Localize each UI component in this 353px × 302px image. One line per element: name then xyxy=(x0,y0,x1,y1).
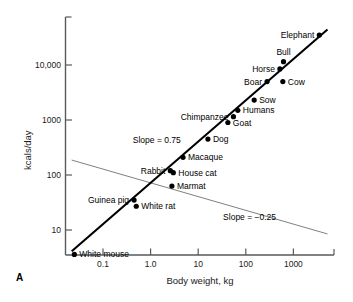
y-axis-title: kcals/day xyxy=(22,130,33,170)
data-point xyxy=(252,98,257,103)
x-tick-label: 100 xyxy=(239,259,253,269)
data-point-label: Rabbit xyxy=(141,166,166,176)
x-tick-marks xyxy=(103,249,293,256)
data-point xyxy=(264,79,269,84)
x-tick-label: 0.1 xyxy=(97,259,109,269)
y-tick-label: 10,000 xyxy=(0,60,61,70)
data-point xyxy=(171,170,176,175)
data-point xyxy=(317,32,322,37)
data-point-label: Guinea pig xyxy=(88,195,129,205)
slope-annotation: Slope = −0.25 xyxy=(223,212,276,222)
data-point-label: Boar xyxy=(244,77,262,87)
y-tick-label: 10 xyxy=(0,225,61,235)
data-point-label: Humans xyxy=(243,105,275,115)
data-point-label: Marmat xyxy=(177,181,206,191)
y-tick-label: 100 xyxy=(0,170,61,180)
data-point-label: Macaque xyxy=(188,152,223,162)
metabolic-rate-line xyxy=(72,30,328,252)
data-point xyxy=(72,252,77,257)
data-point xyxy=(131,197,136,202)
slope-annotation: Slope = 0.75 xyxy=(133,135,181,145)
data-point xyxy=(169,183,174,188)
data-point-label: House cat xyxy=(178,168,216,178)
trend-lines xyxy=(72,30,328,252)
data-point xyxy=(277,66,282,71)
data-point xyxy=(180,155,185,160)
x-tick-label: 10 xyxy=(193,259,202,269)
x-tick-label: 1.0 xyxy=(145,259,157,269)
metabolic-scaling-figure: 10100100010,0000.11.0101001000 White mou… xyxy=(0,0,353,302)
data-point-label: Sow xyxy=(259,95,276,105)
data-point xyxy=(280,79,285,84)
data-point-label: Chimpanzee xyxy=(181,112,229,122)
x-tick-label: 1000 xyxy=(284,259,303,269)
data-point-label: Goat xyxy=(233,118,251,128)
x-axis-title: Body weight, kg xyxy=(166,275,233,286)
data-point xyxy=(281,59,286,64)
data-point-label: Bull xyxy=(276,47,290,57)
data-point-label: White rat xyxy=(141,201,175,211)
data-point-label: Elephant xyxy=(281,30,315,40)
data-point-label: Horse xyxy=(252,64,275,74)
data-point-label: Cow xyxy=(288,77,305,87)
y-tick-marks xyxy=(66,65,73,230)
data-point xyxy=(134,204,139,209)
data-point xyxy=(235,108,240,113)
plot-canvas xyxy=(0,0,353,302)
y-tick-label: 1000 xyxy=(0,115,61,125)
data-point-label: Dog xyxy=(213,134,229,144)
data-point xyxy=(205,136,210,141)
panel-label: A xyxy=(16,272,23,283)
data-point-label: White mouse xyxy=(79,249,129,259)
